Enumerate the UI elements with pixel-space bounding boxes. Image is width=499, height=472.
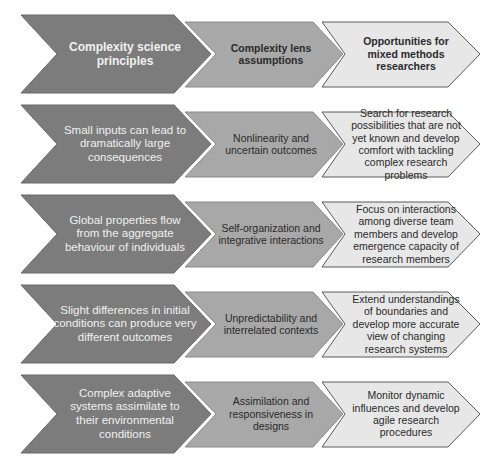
assumption-text: Nonlinearity and uncertain outcomes [212, 111, 330, 177]
principle-text: Small inputs can lead to dramatically la… [50, 104, 200, 184]
principle-text: Slight differences in initial conditions… [50, 284, 200, 364]
assumption-text: Self-organization and integrative intera… [212, 201, 330, 267]
principle-row: Slight differences in initial conditions… [0, 284, 499, 364]
principle-row: Small inputs can lead to dramatically la… [0, 104, 499, 184]
opportunity-text: Monitor dynamic influences and develop a… [350, 381, 462, 447]
principle-row: Complex adaptive systems assimilate to t… [0, 374, 499, 454]
header-opportunity: Opportunities for mixed methods research… [350, 21, 462, 87]
header-assumption: Complexity lens assumptions [212, 21, 330, 87]
header-principle: Complexity science principles [50, 14, 200, 94]
header-row: Complexity science principles Complexity… [0, 14, 499, 94]
principle-row: Global properties flow from the aggregat… [0, 194, 499, 274]
assumption-text: Unpredictability and interrelated contex… [212, 291, 330, 357]
opportunity-text: Focus on interactions among diverse team… [350, 201, 462, 267]
opportunity-text: Search for research possibilities that a… [350, 111, 462, 177]
opportunity-text: Extend understandings of boundaries and … [350, 291, 462, 357]
principle-text: Complex adaptive systems assimilate to t… [50, 374, 200, 454]
principle-text: Global properties flow from the aggregat… [50, 194, 200, 274]
assumption-text: Assimilation and responsiveness in desig… [212, 381, 330, 447]
